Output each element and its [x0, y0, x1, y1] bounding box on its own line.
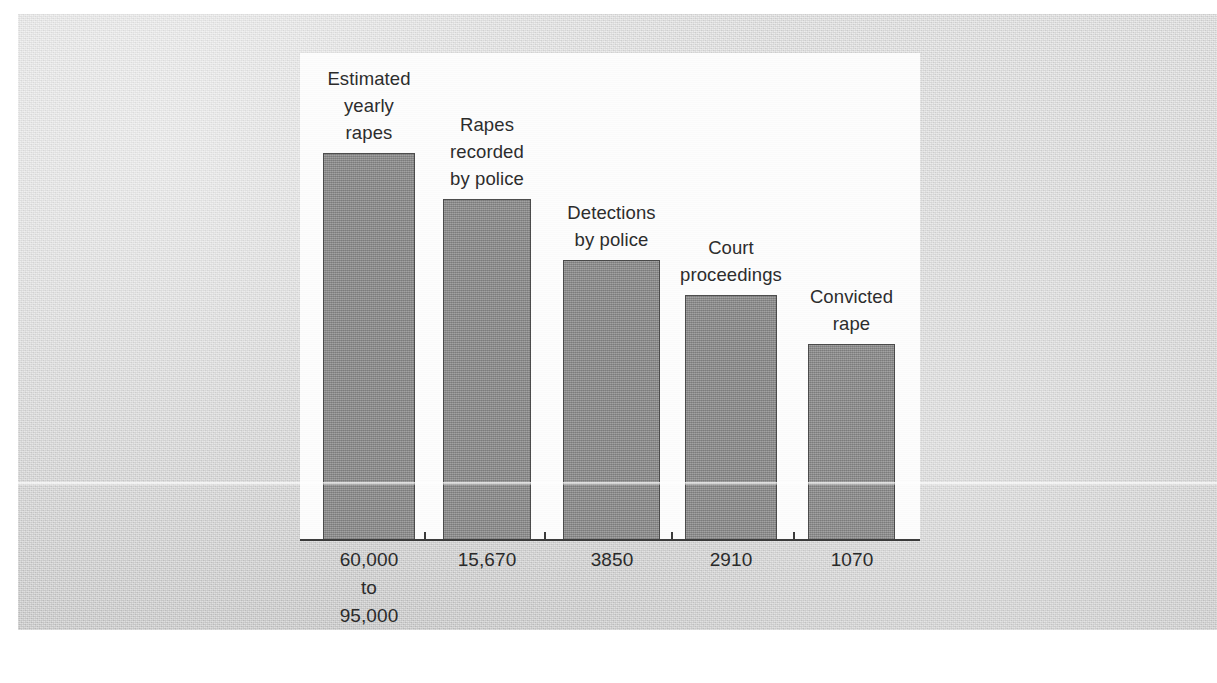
x-axis-tick	[671, 532, 673, 539]
value-label-row: 60,000 to 95,000 15,670 3850 2910 1070	[300, 546, 920, 630]
bar-court-proceedings[interactable]: Court proceedings	[685, 295, 777, 541]
bar-detections-by-police[interactable]: Detections by police	[563, 260, 660, 541]
value-label-convicted-rape: 1070	[777, 546, 927, 574]
x-axis-tick	[544, 532, 546, 539]
bar-estimated-yearly-rapes[interactable]: Estimated yearly rapes	[323, 153, 415, 541]
bar-rect	[323, 153, 415, 541]
x-axis-tick	[424, 532, 426, 539]
bar-rect	[443, 199, 531, 541]
x-axis-tick	[793, 532, 795, 539]
bar-rapes-recorded-by-police[interactable]: Rapes recorded by police	[443, 199, 531, 541]
bar-convicted-rape[interactable]: Convicted rape	[808, 344, 895, 541]
bar-rect	[808, 344, 895, 541]
x-axis-line	[300, 539, 920, 541]
bar-label-rapes-recorded-by-police: Rapes recorded by police	[412, 111, 562, 192]
bar-label-convicted-rape: Convicted rape	[777, 283, 927, 337]
scanned-page: Estimated yearly rapes Rapes recorded by…	[18, 14, 1217, 630]
bar-label-court-proceedings: Court proceedings	[656, 234, 806, 288]
chart-panel: Estimated yearly rapes Rapes recorded by…	[300, 53, 920, 541]
plot-area: Estimated yearly rapes Rapes recorded by…	[300, 53, 920, 541]
bar-rect	[563, 260, 660, 541]
bar-rect	[685, 295, 777, 541]
